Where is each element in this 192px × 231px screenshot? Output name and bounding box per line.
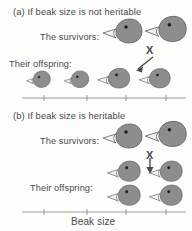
panel-a-survivor-bird-1 [103, 19, 142, 43]
panel-b-survivor-bird-2 [145, 121, 186, 146]
panel-b-axis [22, 209, 186, 215]
panel-b-survivor-bird-1 [103, 124, 142, 148]
panel-b-offspring-bird-2 [149, 161, 182, 181]
panel-b-offspring-bird-4 [149, 185, 182, 205]
panel-a-survivor-bird-2 [145, 16, 186, 41]
figure-artwork [0, 0, 192, 231]
panel-a-offspring-bird-1 [27, 71, 51, 87]
panel-a-offspring-bird-2 [64, 71, 88, 88]
panel-a-offspring-bird-4 [139, 69, 170, 88]
panel-a-offspring-bird-3 [98, 68, 130, 88]
panel-b-offspring-bird-1 [107, 161, 140, 181]
panel-a-arrow [136, 57, 153, 73]
heritability-figure: (a) If beak size is not heritable The su… [0, 0, 192, 231]
panel-a-axis [22, 95, 186, 101]
panel-b-offspring-bird-3 [107, 185, 140, 205]
